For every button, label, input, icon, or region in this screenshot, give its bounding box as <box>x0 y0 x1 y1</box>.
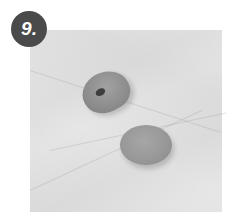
clay-disc <box>120 125 172 165</box>
step-number-label: 9. <box>21 18 37 40</box>
marble-vein <box>30 110 203 191</box>
step-photo <box>30 30 222 212</box>
clay-roll-hole <box>94 87 106 98</box>
step-number-badge: 9. <box>11 11 47 47</box>
